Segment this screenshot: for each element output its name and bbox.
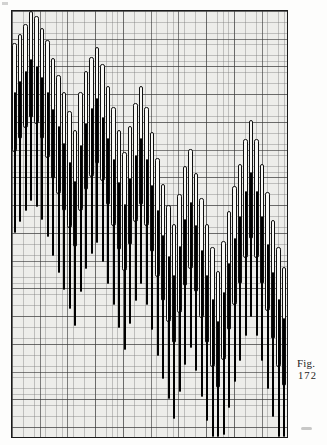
chart-bar [245,191,247,336]
chart-bar [217,321,219,437]
page-smudge [301,427,312,430]
chart-bar [69,162,71,309]
chart-bar [261,216,263,361]
chart-bar [283,318,285,437]
chart-bar [102,117,104,263]
chart-bar [36,66,38,207]
chart-bar [250,172,252,317]
figure-caption-number: 172 [297,370,327,381]
chart-bar [47,92,49,237]
chart-bar [151,185,153,331]
chart-bar [223,292,225,435]
chart-bar [107,138,109,284]
chart-bar [157,210,159,356]
chart-bar [195,225,197,371]
chart-bar [91,108,93,254]
plot-frame [11,10,288,438]
chart-bar [74,181,76,326]
chart-bar [239,216,241,361]
chart-bar [212,299,214,437]
chart-bar [85,123,87,269]
chart-bar [146,159,148,305]
figure-caption-label: Fig. [297,358,327,370]
chart-bar [267,244,269,389]
chart-bar [206,275,208,421]
chart-bar [41,77,43,220]
chart-bar [256,191,258,336]
chart-bar [234,238,236,383]
chart-bar [228,263,230,408]
chart-bar [14,92,16,233]
chart-bar [162,235,164,380]
chart-bar [201,250,203,396]
chart-bar [179,246,181,392]
chart-bar [278,299,280,437]
page-speck [2,2,8,5]
chart-bar [113,159,115,305]
chart-bar [19,81,21,222]
chart-bar [190,202,192,348]
chart-bar [135,155,137,301]
chart-bar [118,182,120,328]
chart-bar [58,126,60,273]
chart-bar [184,219,186,365]
bars-layer [12,11,287,437]
figure-root: Fig. 172 [0,0,327,445]
figure-caption: Fig. 172 [297,358,327,381]
chart-bar [272,272,274,417]
chart-bar [168,256,170,400]
chart-bar [140,138,142,284]
chart-bar [30,59,32,201]
chart-bar [124,204,126,350]
chart-bar [173,275,175,419]
chart-bar [52,109,54,256]
chart-bar [96,98,98,243]
chart-bar [63,143,65,290]
chart-bar [80,145,82,292]
chart-bar [25,71,27,212]
chart-bar [129,178,131,324]
